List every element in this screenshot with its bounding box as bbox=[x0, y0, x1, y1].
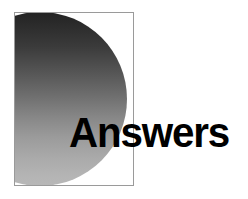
answers-divider-graphic: Answers bbox=[0, 0, 248, 199]
disc-clip-region bbox=[15, 13, 133, 185]
gradient-circle-shape bbox=[15, 13, 127, 185]
artwork-panel bbox=[14, 12, 134, 186]
page-title: Answers bbox=[69, 112, 229, 154]
